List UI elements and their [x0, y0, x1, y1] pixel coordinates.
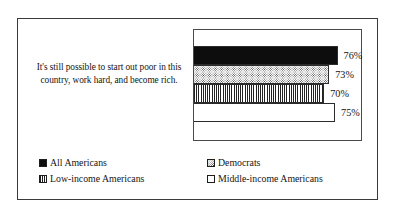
bar-value-democrats: 73%: [335, 69, 354, 79]
question-label: It's still possible to start out poor in…: [24, 61, 194, 86]
bar-row: 76%: [194, 46, 361, 65]
legend-column-right: Democrats Middle-income Americans: [207, 155, 323, 187]
plot-area: 76% 73% 70% 75%: [193, 29, 362, 141]
bar-democrats: [194, 65, 329, 84]
bar-low-income-americans: [194, 84, 324, 103]
legend-label-all-americans: All Americans: [50, 158, 107, 168]
bar-value-low-income-americans: 70%: [330, 88, 349, 98]
legend-swatch-vertical-stripes-icon: [39, 175, 47, 183]
bar-value-middle-income-americans: 75%: [341, 107, 360, 117]
legend-swatch-dotted-icon: [207, 159, 215, 167]
bar-row: 73%: [194, 65, 361, 84]
legend: All Americans Low-income Americans Democ…: [18, 149, 377, 199]
bar-row: 70%: [194, 84, 361, 103]
legend-item-low-income-americans: Low-income Americans: [39, 171, 144, 187]
chart-upper-region: It's still possible to start out poor in…: [18, 19, 377, 147]
bar-middle-income-americans: [194, 103, 335, 122]
legend-label-democrats: Democrats: [218, 158, 260, 168]
legend-item-middle-income-americans: Middle-income Americans: [207, 171, 323, 187]
bar-group: 76% 73% 70% 75%: [194, 46, 361, 122]
figure-frame: It's still possible to start out poor in…: [17, 18, 378, 200]
legend-item-democrats: Democrats: [207, 155, 323, 171]
legend-label-low-income-americans: Low-income Americans: [50, 174, 144, 184]
bar-value-all-americans: 76%: [344, 50, 363, 60]
bar-row: 75%: [194, 103, 361, 122]
legend-column-left: All Americans Low-income Americans: [39, 155, 144, 187]
bar-all-americans: [194, 46, 338, 65]
legend-item-all-americans: All Americans: [39, 155, 144, 171]
legend-swatch-white-icon: [207, 175, 215, 183]
legend-label-middle-income-americans: Middle-income Americans: [218, 174, 323, 184]
legend-swatch-solid-black-icon: [39, 159, 47, 167]
